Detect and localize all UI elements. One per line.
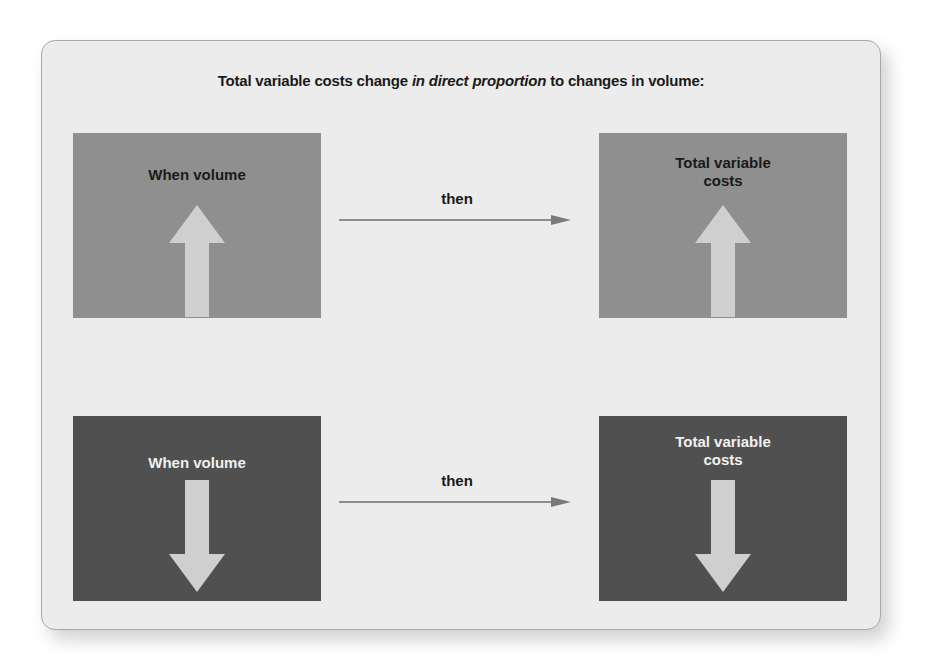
- right-arrow-icon: [337, 496, 577, 508]
- volume-down-label: When volume: [73, 454, 321, 472]
- diagram-title: Total variable costs change in direct pr…: [42, 72, 880, 89]
- costs-label-line2: costs: [599, 451, 847, 469]
- costs-label-line1: Total variable: [599, 154, 847, 172]
- title-text-post: to changes in volume:: [546, 72, 704, 89]
- down-arrow-icon: [695, 480, 751, 592]
- title-text-emphasis: in direct proportion: [412, 72, 546, 89]
- volume-up-label: When volume: [73, 166, 321, 184]
- up-arrow-icon: [695, 205, 751, 317]
- then-label: then: [337, 190, 577, 207]
- up-arrow-icon: [169, 205, 225, 317]
- costs-down-box: Total variable costs: [599, 416, 847, 601]
- diagram-card: Total variable costs change in direct pr…: [41, 40, 881, 630]
- costs-up-label: Total variable costs: [599, 154, 847, 190]
- then-connector-down: then: [337, 472, 577, 512]
- right-arrow-icon: [337, 214, 577, 226]
- costs-down-label: Total variable costs: [599, 433, 847, 469]
- then-connector-up: then: [337, 190, 577, 230]
- volume-up-box: When volume: [73, 133, 321, 318]
- then-label: then: [337, 472, 577, 489]
- down-arrow-icon: [169, 480, 225, 592]
- volume-down-box: When volume: [73, 416, 321, 601]
- costs-up-box: Total variable costs: [599, 133, 847, 318]
- title-text-pre: Total variable costs change: [218, 72, 412, 89]
- costs-label-line1: Total variable: [599, 433, 847, 451]
- costs-label-line2: costs: [599, 172, 847, 190]
